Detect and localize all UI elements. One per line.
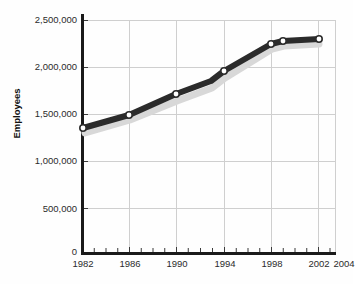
vertical-gridlines bbox=[130, 20, 336, 253]
data-point-1982 bbox=[80, 125, 86, 131]
data-point-1998 bbox=[268, 41, 274, 47]
data-point-2002 bbox=[316, 36, 322, 42]
data-point-1986 bbox=[126, 112, 132, 118]
data-point-1990 bbox=[173, 91, 179, 97]
data-point-1994 bbox=[221, 68, 227, 74]
data-point-1999 bbox=[280, 38, 286, 44]
